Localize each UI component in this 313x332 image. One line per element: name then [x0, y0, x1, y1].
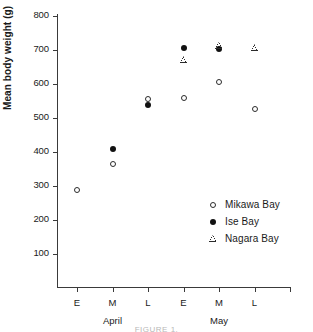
y-tick-label: 700 — [33, 43, 49, 54]
legend-label: Mikawa Bay — [225, 199, 280, 210]
y-tick-label: 600 — [33, 77, 49, 88]
figure-caption: FIGURE 1. — [0, 325, 313, 332]
legend-marker-icon — [207, 213, 225, 230]
x-tick-label: M — [103, 297, 123, 308]
legend-label: Nagara Bay — [225, 233, 279, 244]
y-axis-line — [57, 14, 58, 288]
legend-item: Ise Bay — [207, 213, 311, 230]
y-tick: 700 — [53, 50, 58, 51]
x-tick — [255, 287, 256, 292]
x-tick-label: L — [245, 297, 265, 308]
legend-marker-icon — [207, 196, 225, 213]
x-tick — [290, 287, 291, 292]
legend: Mikawa BayIse BayNagara Bay — [207, 196, 311, 247]
x-tick — [148, 287, 149, 292]
x-tick-label: E — [67, 297, 87, 308]
y-tick: 300 — [53, 186, 58, 187]
y-tick: 500 — [53, 118, 58, 119]
y-tick-label: 300 — [33, 179, 49, 190]
y-tick: 600 — [53, 84, 58, 85]
x-tick-label: M — [209, 297, 229, 308]
y-tick: 800 — [53, 16, 58, 17]
x-tick — [184, 287, 185, 292]
y-tick-label: 400 — [33, 145, 49, 156]
legend-item: Mikawa Bay — [207, 196, 311, 213]
y-axis-label: Mean body weight (g) — [2, 0, 13, 110]
x-tick — [113, 287, 114, 292]
x-axis-line — [57, 287, 291, 288]
x-tick — [219, 287, 220, 292]
y-tick-label: 800 — [33, 9, 49, 20]
x-tick-label: E — [174, 297, 194, 308]
figure-scatter-plot: Mean body weight (g) 1002003004005006007… — [0, 0, 313, 332]
y-tick: 100 — [53, 254, 58, 255]
legend-item: Nagara Bay — [207, 230, 311, 247]
legend-label: Ise Bay — [225, 216, 259, 227]
y-tick-label: 500 — [33, 111, 49, 122]
x-tick — [77, 287, 78, 292]
y-tick: 200 — [53, 220, 58, 221]
legend-marker-icon — [207, 230, 225, 247]
x-tick-label: L — [138, 297, 158, 308]
y-tick: 400 — [53, 152, 58, 153]
y-tick-label: 100 — [33, 247, 49, 258]
y-tick-label: 200 — [33, 213, 49, 224]
